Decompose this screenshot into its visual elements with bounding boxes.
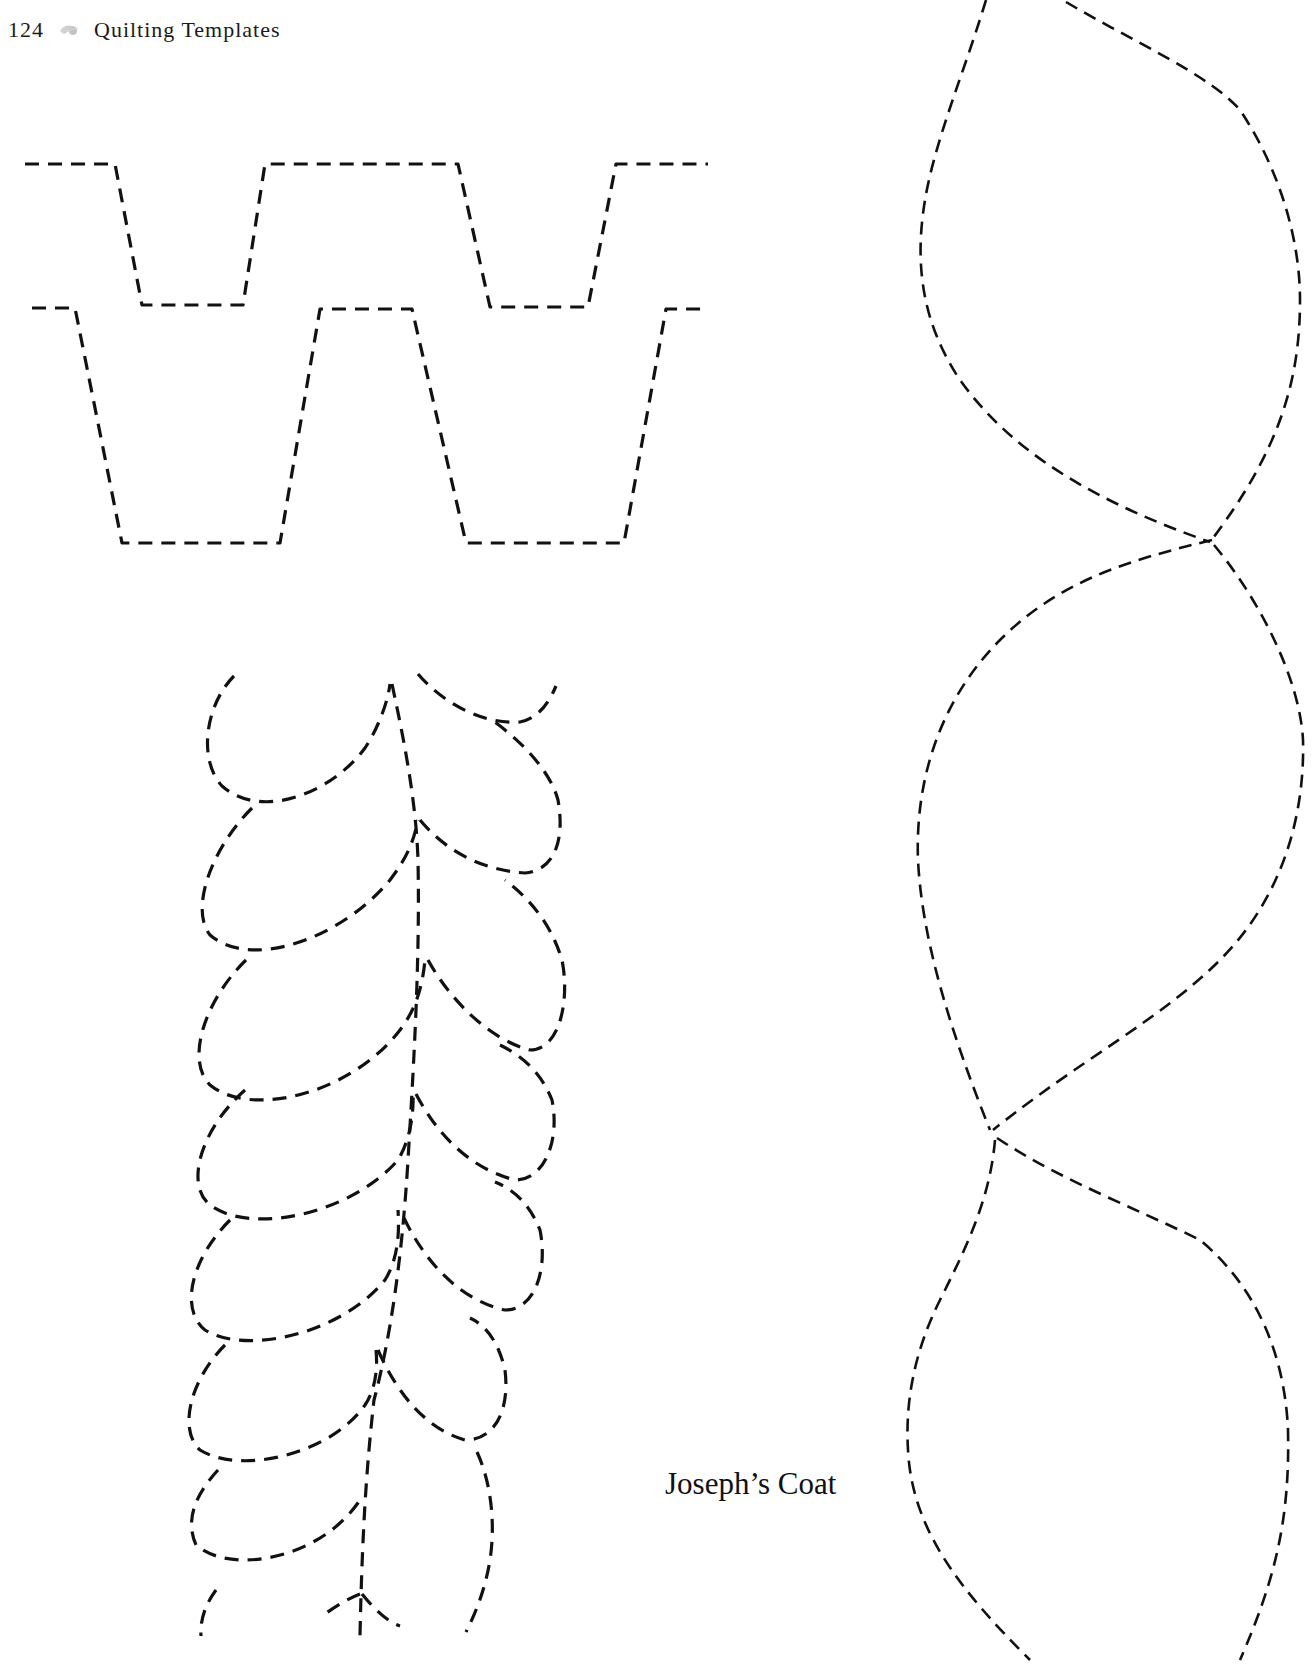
- teardrop-3-right: [997, 1138, 1288, 1660]
- feather-plume-right-7: [466, 1452, 492, 1632]
- feather-plume-right-6: [378, 1318, 506, 1440]
- teardrop-chain: [907, 0, 1303, 1660]
- feather-plume-left-7: [192, 1470, 360, 1560]
- feather-plume-right-3: [428, 880, 565, 1050]
- teardrop-1-left: [921, 0, 1210, 542]
- template-artwork: [0, 0, 1313, 1672]
- feather-fork-left: [325, 1594, 360, 1614]
- teardrop-2-left: [918, 540, 1212, 1130]
- feather-plume-left-6: [189, 1345, 377, 1461]
- zigzag-row-2: [32, 308, 705, 543]
- zigzag-row-1: [25, 164, 708, 307]
- feather-plume-right-5: [404, 1182, 542, 1310]
- feather-plume-left-4: [198, 1090, 413, 1219]
- feather-plume-right-4: [416, 1045, 554, 1180]
- teardrop-1-right: [1066, 2, 1300, 542]
- template-caption: Joseph’s Coat: [665, 1466, 836, 1502]
- feather-plume-left-1: [207, 676, 390, 802]
- feather-vine: [189, 674, 565, 1636]
- feather-fork-right: [362, 1594, 400, 1626]
- teardrop-3-left: [907, 1140, 1030, 1660]
- feather-plume-right-1: [418, 674, 556, 722]
- zigzag-border: [25, 164, 708, 543]
- feather-plume-left-3: [199, 960, 425, 1100]
- feather-plume-left-5: [191, 1210, 398, 1341]
- feather-plume-right-2: [420, 720, 560, 873]
- feather-spine: [360, 684, 418, 1636]
- feather-plume-left-2: [202, 808, 418, 950]
- feather-plume-left-8: [201, 1590, 216, 1636]
- teardrop-2-right: [993, 545, 1303, 1130]
